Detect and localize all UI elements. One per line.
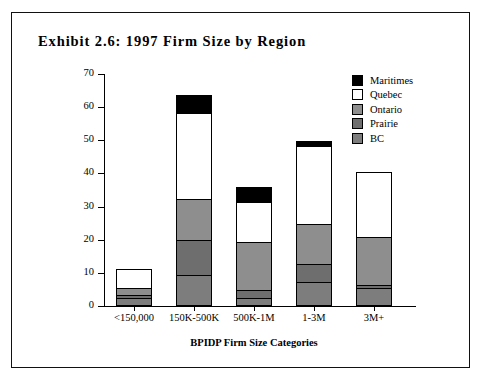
legend-swatch-icon	[352, 89, 363, 100]
legend-item[interactable]: Ontario	[352, 102, 413, 117]
y-axis-tick-label: 0	[62, 299, 94, 310]
bar-segment-quebec[interactable]	[176, 113, 212, 200]
bar-segment-maritimes[interactable]	[296, 141, 332, 147]
x-axis-tick	[374, 306, 375, 311]
bar-segment-prairie[interactable]	[296, 264, 332, 283]
legend-swatch-icon	[352, 118, 363, 129]
bar-stack	[296, 142, 332, 306]
bar-segment-quebec[interactable]	[236, 202, 272, 243]
page-title: Exhibit 2.6: 1997 Firm Size by Region	[38, 33, 306, 50]
legend-swatch-icon	[352, 133, 363, 144]
x-axis-tick	[134, 306, 135, 311]
y-axis-tick	[98, 306, 104, 307]
bar-segment-maritimes[interactable]	[236, 187, 272, 203]
x-axis-tick	[314, 306, 315, 311]
x-axis-category-label: 1-3M	[302, 312, 325, 323]
bar-segment-prairie[interactable]	[236, 290, 272, 299]
legend-item[interactable]: Prairie	[352, 117, 413, 132]
bar-segment-bc[interactable]	[356, 288, 392, 306]
bar-segment-quebec[interactable]	[296, 146, 332, 225]
bar-segment-bc[interactable]	[296, 282, 332, 306]
x-axis-tick	[254, 306, 255, 311]
legend-label: Prairie	[370, 118, 398, 129]
legend-label: Maritimes	[370, 75, 413, 86]
x-axis-category-label: <150,000	[114, 312, 154, 323]
bar-stack	[356, 173, 392, 306]
y-axis-tick-label: 60	[62, 100, 94, 111]
y-axis-tick-label: 70	[62, 67, 94, 78]
x-axis-category-label: 500K-1M	[233, 312, 274, 323]
exhibit-figure: Exhibit 2.6: 1997 Firm Size by Region Nu…	[0, 0, 484, 382]
bar-segment-maritimes[interactable]	[176, 95, 212, 114]
bar-segment-ontario[interactable]	[116, 288, 152, 296]
legend-swatch-icon	[352, 104, 363, 115]
bar-segment-prairie[interactable]	[176, 240, 212, 276]
bar-segment-ontario[interactable]	[296, 224, 332, 265]
legend-item[interactable]: Maritimes	[352, 73, 413, 88]
bar-group[interactable]	[296, 74, 332, 306]
legend-swatch-icon	[352, 75, 363, 86]
y-axis-tick-label: 20	[62, 233, 94, 244]
bar-stack	[236, 188, 272, 306]
legend: MaritimesQuebecOntarioPrairieBC	[352, 73, 413, 146]
bar-segment-bc[interactable]	[116, 298, 152, 306]
bar-stack	[176, 96, 212, 306]
bar-group[interactable]	[176, 74, 212, 306]
legend-label: BC	[370, 133, 384, 144]
x-axis-line	[104, 306, 416, 307]
bar-segment-ontario[interactable]	[356, 237, 392, 286]
bar-group[interactable]	[116, 74, 152, 306]
bar-segment-bc[interactable]	[176, 275, 212, 306]
bar-group[interactable]	[236, 74, 272, 306]
y-axis-tick-label: 50	[62, 133, 94, 144]
bar-segment-quebec[interactable]	[116, 269, 152, 290]
bar-segment-quebec[interactable]	[356, 172, 392, 238]
bar-segment-ontario[interactable]	[236, 242, 272, 291]
x-axis-tick	[194, 306, 195, 311]
bar-segment-ontario[interactable]	[176, 199, 212, 241]
bar-stack	[116, 270, 152, 306]
legend-item[interactable]: BC	[352, 131, 413, 146]
legend-label: Ontario	[370, 104, 402, 115]
x-axis-category-label: 150K-500K	[169, 312, 219, 323]
y-axis-tick-label: 40	[62, 166, 94, 177]
x-axis-title: BPIDP Firm Size Categories	[104, 337, 404, 348]
bar-segment-bc[interactable]	[236, 298, 272, 306]
legend-label: Quebec	[370, 89, 402, 100]
legend-item[interactable]: Quebec	[352, 88, 413, 103]
y-axis-tick-label: 10	[62, 266, 94, 277]
x-axis-category-label: 3M+	[364, 312, 385, 323]
y-axis-tick-label: 30	[62, 200, 94, 211]
